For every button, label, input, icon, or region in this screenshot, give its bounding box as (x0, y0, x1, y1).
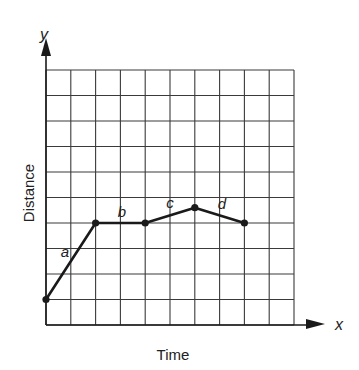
data-point (241, 219, 248, 226)
data-point (42, 296, 49, 303)
segment-label-b: b (118, 203, 126, 220)
x-axis-label: Time (157, 346, 190, 363)
y-axis-symbol: y (39, 26, 49, 43)
x-axis (46, 319, 325, 329)
data-point (92, 219, 99, 226)
segment-label-c: c (166, 194, 174, 211)
data-point (142, 219, 149, 226)
distance-time-graph: y x Distance Time a b c d (0, 0, 359, 370)
x-axis-symbol: x (334, 316, 344, 333)
y-axis (41, 38, 51, 325)
segment-label-a: a (61, 243, 69, 260)
segment-label-d: d (218, 195, 227, 212)
data-point (191, 204, 198, 211)
x-axis-arrow-icon (306, 319, 325, 329)
y-axis-label: Distance (20, 164, 37, 222)
